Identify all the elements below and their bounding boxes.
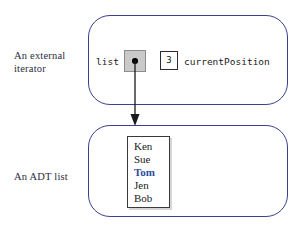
list-item: Sue [134, 153, 169, 166]
caption-adt-list: An ADT list [14, 171, 94, 184]
adt-list-elements: Ken Sue Tom Jen Bob [127, 136, 170, 208]
diagram-canvas: An external iterator An ADT list list 3 … [0, 0, 296, 230]
current-position-cell: 3 [160, 51, 178, 70]
list-item-current: Tom [134, 166, 169, 179]
caption-external-iterator: An external iterator [14, 50, 86, 75]
current-position-label: currentPosition [184, 56, 270, 67]
list-item: Bob [134, 192, 169, 205]
list-item: Jen [134, 179, 169, 192]
list-pointer-cell [124, 50, 146, 72]
adt-list-container [88, 125, 288, 217]
pointer-dot-icon [132, 58, 138, 64]
list-item: Ken [134, 140, 169, 153]
current-position-value: 3 [166, 56, 171, 65]
list-reference-label: list [96, 56, 119, 67]
